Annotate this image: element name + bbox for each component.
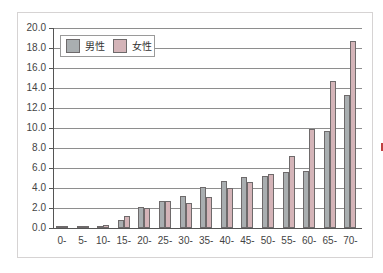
y-tick bbox=[49, 208, 53, 209]
bar-female-25 bbox=[165, 201, 171, 228]
bar-female-40 bbox=[227, 188, 233, 228]
male-swatch bbox=[66, 39, 80, 53]
bar-female-60 bbox=[309, 129, 315, 228]
y-tick bbox=[49, 148, 53, 149]
bar-female-15 bbox=[124, 216, 130, 228]
y-tick bbox=[49, 28, 53, 29]
bar-female-50 bbox=[268, 174, 274, 228]
bar-female-35 bbox=[206, 197, 212, 228]
gridline bbox=[53, 148, 362, 149]
gridline bbox=[53, 168, 362, 169]
y-tick-label: 10.0 bbox=[12, 123, 46, 133]
gridline bbox=[53, 68, 362, 69]
gridline bbox=[53, 108, 362, 109]
gridline bbox=[53, 188, 362, 189]
bar-female-20 bbox=[144, 208, 150, 228]
y-tick bbox=[49, 228, 53, 229]
gridline bbox=[53, 28, 362, 29]
bar-female-65 bbox=[330, 81, 336, 228]
y-tick bbox=[49, 168, 53, 169]
y-tick bbox=[49, 108, 53, 109]
y-tick-label: 0.0 bbox=[12, 223, 46, 233]
legend: 男性 女性 bbox=[60, 35, 155, 57]
bar-female-30 bbox=[186, 203, 192, 228]
female-swatch bbox=[113, 39, 127, 53]
legend-label-male: 男性 bbox=[85, 41, 105, 52]
x-axis bbox=[53, 228, 362, 229]
bar-female-55 bbox=[289, 156, 295, 228]
y-axis bbox=[53, 28, 54, 229]
y-tick-label: 6.0 bbox=[12, 163, 46, 173]
gridline bbox=[53, 128, 362, 129]
y-tick-label: 4.0 bbox=[12, 183, 46, 193]
y-tick bbox=[49, 68, 53, 69]
y-tick-label: 14.0 bbox=[12, 83, 46, 93]
y-tick-label: 2.0 bbox=[12, 203, 46, 213]
bar-female-45 bbox=[247, 182, 253, 228]
bar-female-70 bbox=[350, 41, 356, 228]
x-tick-label: 70- bbox=[338, 236, 362, 246]
legend-label-female: 女性 bbox=[132, 41, 152, 52]
plot-area bbox=[53, 28, 362, 228]
y-tick-label: 8.0 bbox=[12, 143, 46, 153]
y-tick bbox=[49, 48, 53, 49]
y-tick bbox=[49, 128, 53, 129]
y-tick bbox=[49, 88, 53, 89]
y-tick-label: 20.0 bbox=[12, 23, 46, 33]
gridline bbox=[53, 88, 362, 89]
y-tick-label: 12.0 bbox=[12, 103, 46, 113]
y-tick bbox=[49, 188, 53, 189]
y-tick-label: 18.0 bbox=[12, 43, 46, 53]
y-tick-label: 16.0 bbox=[12, 63, 46, 73]
